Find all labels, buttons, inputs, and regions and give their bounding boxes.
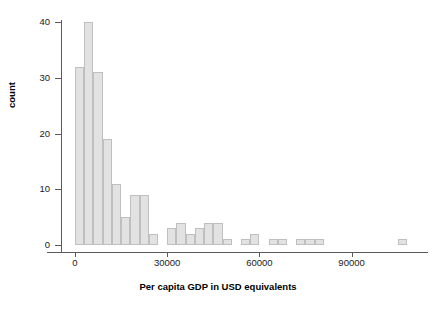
- histogram-bar: [112, 184, 121, 245]
- histogram-bar: [140, 195, 149, 245]
- histogram-bar: [176, 223, 185, 245]
- histogram-bar: [121, 217, 130, 245]
- histogram-bar: [93, 72, 102, 245]
- histogram-bar: [204, 223, 213, 245]
- histogram-bar: [75, 67, 84, 245]
- y-tick-label: 0: [28, 240, 50, 250]
- y-axis-line: [61, 20, 62, 252]
- histogram-bar: [278, 239, 287, 245]
- y-tick-label: 40: [28, 17, 50, 27]
- histogram-bar: [305, 239, 314, 245]
- histogram-bar: [296, 239, 305, 245]
- y-tick-mark: [55, 22, 61, 23]
- histogram-bar: [213, 223, 222, 245]
- histogram-bar: [250, 234, 259, 245]
- y-tick-mark: [55, 134, 61, 135]
- y-tick-label: 20: [28, 129, 50, 139]
- histogram-bar: [149, 234, 158, 245]
- histogram-bar: [315, 239, 324, 245]
- x-axis-title: Per capita GDP in USD equivalents: [0, 281, 436, 292]
- histogram-bar: [186, 234, 195, 245]
- histogram-bar: [269, 239, 278, 245]
- histogram-plot: 010203040 0300006000090000 count Per cap…: [0, 0, 436, 309]
- histogram-bar: [167, 228, 176, 245]
- x-tick-label: 90000: [322, 258, 382, 268]
- histogram-bar: [130, 195, 139, 245]
- histogram-bar: [195, 228, 204, 245]
- histogram-bar: [223, 239, 232, 245]
- x-axis-line: [47, 252, 428, 253]
- histogram-bar: [398, 239, 407, 245]
- histogram-bar: [241, 239, 250, 245]
- y-tick-mark: [55, 245, 61, 246]
- y-tick-mark: [55, 78, 61, 79]
- x-tick-label: 60000: [229, 258, 289, 268]
- y-tick-label: 30: [28, 73, 50, 83]
- histogram-bar: [103, 139, 112, 245]
- histogram-bar: [84, 22, 93, 245]
- y-tick-label: 10: [28, 184, 50, 194]
- x-tick-label: 0: [45, 258, 105, 268]
- y-axis-title: count: [6, 82, 17, 108]
- x-tick-label: 30000: [137, 258, 197, 268]
- y-tick-mark: [55, 189, 61, 190]
